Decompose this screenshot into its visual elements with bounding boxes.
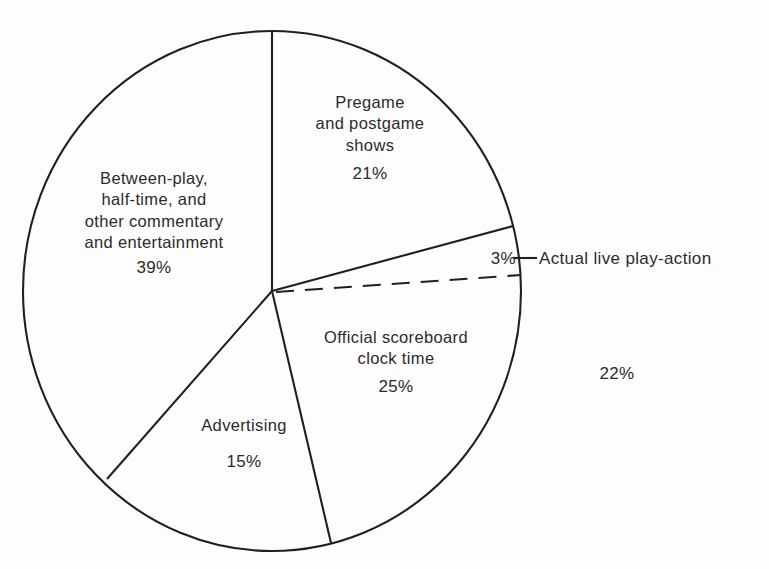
slice-label-between-play: Between-play, half-time, and other comme… [40, 168, 268, 254]
slice-label-advertising: Advertising [160, 415, 328, 436]
slice-label-scoreboard: Official scoreboard clock time [296, 327, 496, 370]
slice-percent-scoreboard: 25% [296, 377, 496, 397]
slice-percent-live-play-action: 3% [470, 249, 516, 269]
slice-percent-pregame: 21% [288, 164, 452, 184]
slice-boundary-liveaction-scoreboard [276, 275, 521, 292]
standalone-percent-annotation: 22% [562, 364, 672, 384]
slice-boundary-advertising-between [107, 291, 272, 479]
slice-percent-between-play: 39% [40, 258, 268, 278]
slice-label-pregame: Pregame and postgame shows [288, 92, 452, 156]
slice-percent-advertising: 15% [160, 452, 328, 472]
pie-chart-graphic [0, 0, 769, 569]
slice-label-live-play-action: Actual live play-action [539, 248, 765, 270]
pie-chart-figure: Pregame and postgame shows 21% Between-p… [0, 0, 769, 569]
